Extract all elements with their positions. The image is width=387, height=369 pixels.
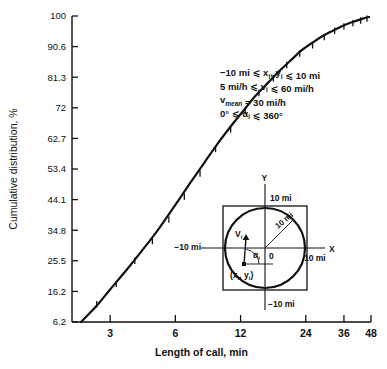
y-tick-label: 25.5 (48, 255, 67, 266)
legend-line: vmean = 30 mi/h (220, 94, 286, 108)
legend-line: 5 mi/h ⩽ vi ⩽ 60 mi/h (220, 81, 314, 95)
inset-bottom-label: −10 mi (268, 299, 295, 309)
y-tick-label: 16.2 (48, 286, 67, 297)
y-tick-label: 81.3 (48, 72, 67, 83)
inset-radius-label: 10 mi (274, 210, 295, 230)
inset-top-label: 10 mi (270, 193, 292, 203)
inset-origin-label: 0 (269, 251, 274, 261)
inset-right-label: 10 mi (304, 253, 326, 263)
axes (72, 16, 371, 322)
y-tick-label: 100 (50, 10, 66, 21)
x-tick-label: 48 (365, 327, 377, 339)
inset-angle-label: αi (253, 250, 260, 261)
y-tick-label: 72 (55, 102, 66, 113)
cumulative-distribution-chart: 6.216.225.534.844.153.462.77281.390.6100… (0, 0, 387, 369)
inset-y-axis-label: Y (262, 173, 268, 183)
inset-velocity-label: Vi (235, 229, 243, 240)
y-axis-title: Cumulative distribution, % (7, 108, 19, 229)
chart-svg: 6.216.225.534.844.153.462.77281.390.6100… (0, 0, 387, 369)
y-axis-ticks: 6.216.225.534.844.153.462.77281.390.6100 (48, 10, 79, 327)
x-axis-ticks: 3612243648 (107, 315, 377, 339)
x-tick-label: 6 (172, 327, 178, 339)
x-tick-label: 12 (235, 327, 247, 339)
inset-velocity-arrowhead (243, 234, 250, 240)
x-axis-title: Length of call, min (155, 346, 248, 358)
inset-x-axis-label: X (329, 244, 335, 254)
inset-left-label: −10 mi (174, 242, 201, 252)
legend: −10 mi ⩽ xi, yi ⩽ 10 mi5 mi/h ⩽ vi ⩽ 60 … (220, 67, 320, 121)
x-tick-label: 3 (107, 327, 113, 339)
inset-point-label: (xi, yi) (230, 270, 253, 281)
y-tick-label: 34.8 (48, 225, 67, 236)
y-tick-label: 53.4 (48, 163, 67, 174)
y-tick-label: 90.6 (48, 41, 67, 52)
x-tick-label: 24 (300, 327, 312, 339)
y-tick-label: 62.7 (48, 133, 67, 144)
legend-line: 0° ⩽ αi ⩽ 360° (220, 108, 283, 122)
y-tick-label: 44.1 (48, 194, 67, 205)
data-markers (97, 15, 367, 307)
y-tick-label: 6.2 (53, 316, 66, 327)
inset-diagram: XY10 mi−10 mi−10 mi10 mi010 miViαi(xi, y… (174, 173, 335, 310)
x-tick-label: 36 (338, 327, 350, 339)
inset-velocity-vector (244, 238, 246, 264)
data-curve (81, 17, 369, 322)
legend-line: −10 mi ⩽ xi, yi ⩽ 10 mi (220, 67, 320, 81)
